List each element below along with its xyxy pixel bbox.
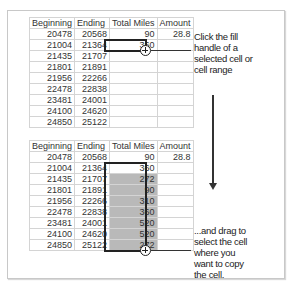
header-beginning[interactable]: Beginning: [30, 141, 75, 152]
table-row: 20478 20568 90 28.8: [30, 152, 194, 163]
cell[interactable]: 21801: [30, 185, 75, 196]
callout-line: ...and drag to: [194, 225, 247, 236]
cell[interactable]: 90: [110, 29, 158, 40]
callout-leader-line-top: [151, 50, 191, 51]
table-row: 24850 25122: [30, 117, 194, 128]
selected-range-border: [104, 162, 147, 252]
arrow-head-icon: [209, 183, 217, 190]
cell[interactable]: 21004: [30, 40, 75, 51]
cell[interactable]: [157, 185, 193, 196]
cell[interactable]: [157, 196, 193, 207]
cell[interactable]: [157, 218, 193, 229]
cell[interactable]: 21891: [75, 62, 110, 73]
cell[interactable]: 21956: [30, 73, 75, 84]
cell[interactable]: [110, 73, 158, 84]
table-row: 21956 22266: [30, 73, 194, 84]
callout-line: the cell.: [194, 269, 247, 280]
cell[interactable]: 23481: [30, 218, 75, 229]
cell[interactable]: 23481: [30, 95, 75, 106]
header-ending[interactable]: Ending: [75, 18, 110, 29]
cell[interactable]: 22478: [30, 207, 75, 218]
cell[interactable]: 21707: [75, 51, 110, 62]
table-row: 22478 22838: [30, 84, 194, 95]
header-amount[interactable]: Amount: [157, 18, 193, 29]
callout-line: Click the fill: [194, 31, 253, 42]
cell[interactable]: 90: [110, 152, 158, 163]
cell[interactable]: [157, 229, 193, 240]
crosshair-plus-icon[interactable]: [140, 245, 151, 256]
cell[interactable]: 24850: [30, 117, 75, 128]
cell[interactable]: 25122: [75, 117, 110, 128]
cell[interactable]: 20568: [75, 29, 110, 40]
cell[interactable]: 20568: [75, 152, 110, 163]
table-row: 21435 21707: [30, 51, 194, 62]
header-beginning[interactable]: Beginning: [30, 18, 75, 29]
table-row: 20478 20568 90 28.8: [30, 29, 194, 40]
cell[interactable]: [110, 106, 158, 117]
cell[interactable]: [110, 95, 158, 106]
callout-top: Click the fill handle of a selected cell…: [194, 31, 253, 75]
cell[interactable]: 24620: [75, 106, 110, 117]
cell[interactable]: 20478: [30, 152, 75, 163]
table-row: 21801 21891: [30, 62, 194, 73]
callout-line: handle of a: [194, 42, 253, 53]
header-row: Beginning Ending Total Miles Amount: [30, 18, 194, 29]
cell[interactable]: [157, 207, 193, 218]
table-row: 23481 24001: [30, 95, 194, 106]
cell[interactable]: 21801: [30, 62, 75, 73]
spreadsheet-before: Beginning Ending Total Miles Amount 2047…: [29, 17, 194, 128]
callout-line: select the cell: [194, 236, 247, 247]
cell[interactable]: 24100: [30, 106, 75, 117]
callout-line: cell range: [194, 64, 253, 75]
header-amount[interactable]: Amount: [157, 141, 193, 152]
callout-line: selected cell or: [194, 53, 253, 64]
header-ending[interactable]: Ending: [75, 141, 110, 152]
cell[interactable]: [157, 240, 193, 251]
cell[interactable]: [157, 106, 193, 117]
cell[interactable]: 24100: [30, 229, 75, 240]
cell[interactable]: [110, 84, 158, 95]
cell[interactable]: [157, 95, 193, 106]
callout-bottom: ...and drag to select the cell where you…: [194, 225, 247, 280]
cell[interactable]: [110, 62, 158, 73]
cell[interactable]: 22266: [75, 73, 110, 84]
arrow-down-icon: [212, 95, 214, 183]
cell[interactable]: [157, 73, 193, 84]
cell[interactable]: 28.8: [157, 29, 193, 40]
cell[interactable]: 21004: [30, 163, 75, 174]
cell[interactable]: 21435: [30, 174, 75, 185]
callout-leader-line-bottom: [151, 250, 191, 251]
header-row: Beginning Ending Total Miles Amount: [30, 141, 194, 152]
cell[interactable]: 21435: [30, 51, 75, 62]
cell[interactable]: [157, 84, 193, 95]
table-row: 24100 24620: [30, 106, 194, 117]
cell[interactable]: [157, 117, 193, 128]
cell[interactable]: [157, 62, 193, 73]
cell[interactable]: [157, 174, 193, 185]
cell[interactable]: [157, 40, 193, 51]
cell[interactable]: 24001: [75, 95, 110, 106]
crosshair-plus-icon[interactable]: [140, 45, 151, 56]
callout-line: want to copy: [194, 258, 247, 269]
callout-line: where you: [194, 247, 247, 258]
cell[interactable]: [110, 117, 158, 128]
header-total-miles[interactable]: Total Miles: [110, 18, 158, 29]
cell[interactable]: [157, 163, 193, 174]
cell[interactable]: 20478: [30, 29, 75, 40]
cell[interactable]: 21956: [30, 196, 75, 207]
cell[interactable]: 22478: [30, 84, 75, 95]
cell[interactable]: 22838: [75, 84, 110, 95]
cell[interactable]: 28.8: [157, 152, 193, 163]
cell[interactable]: 24850: [30, 240, 75, 251]
header-total-miles[interactable]: Total Miles: [110, 141, 158, 152]
cell[interactable]: [157, 51, 193, 62]
